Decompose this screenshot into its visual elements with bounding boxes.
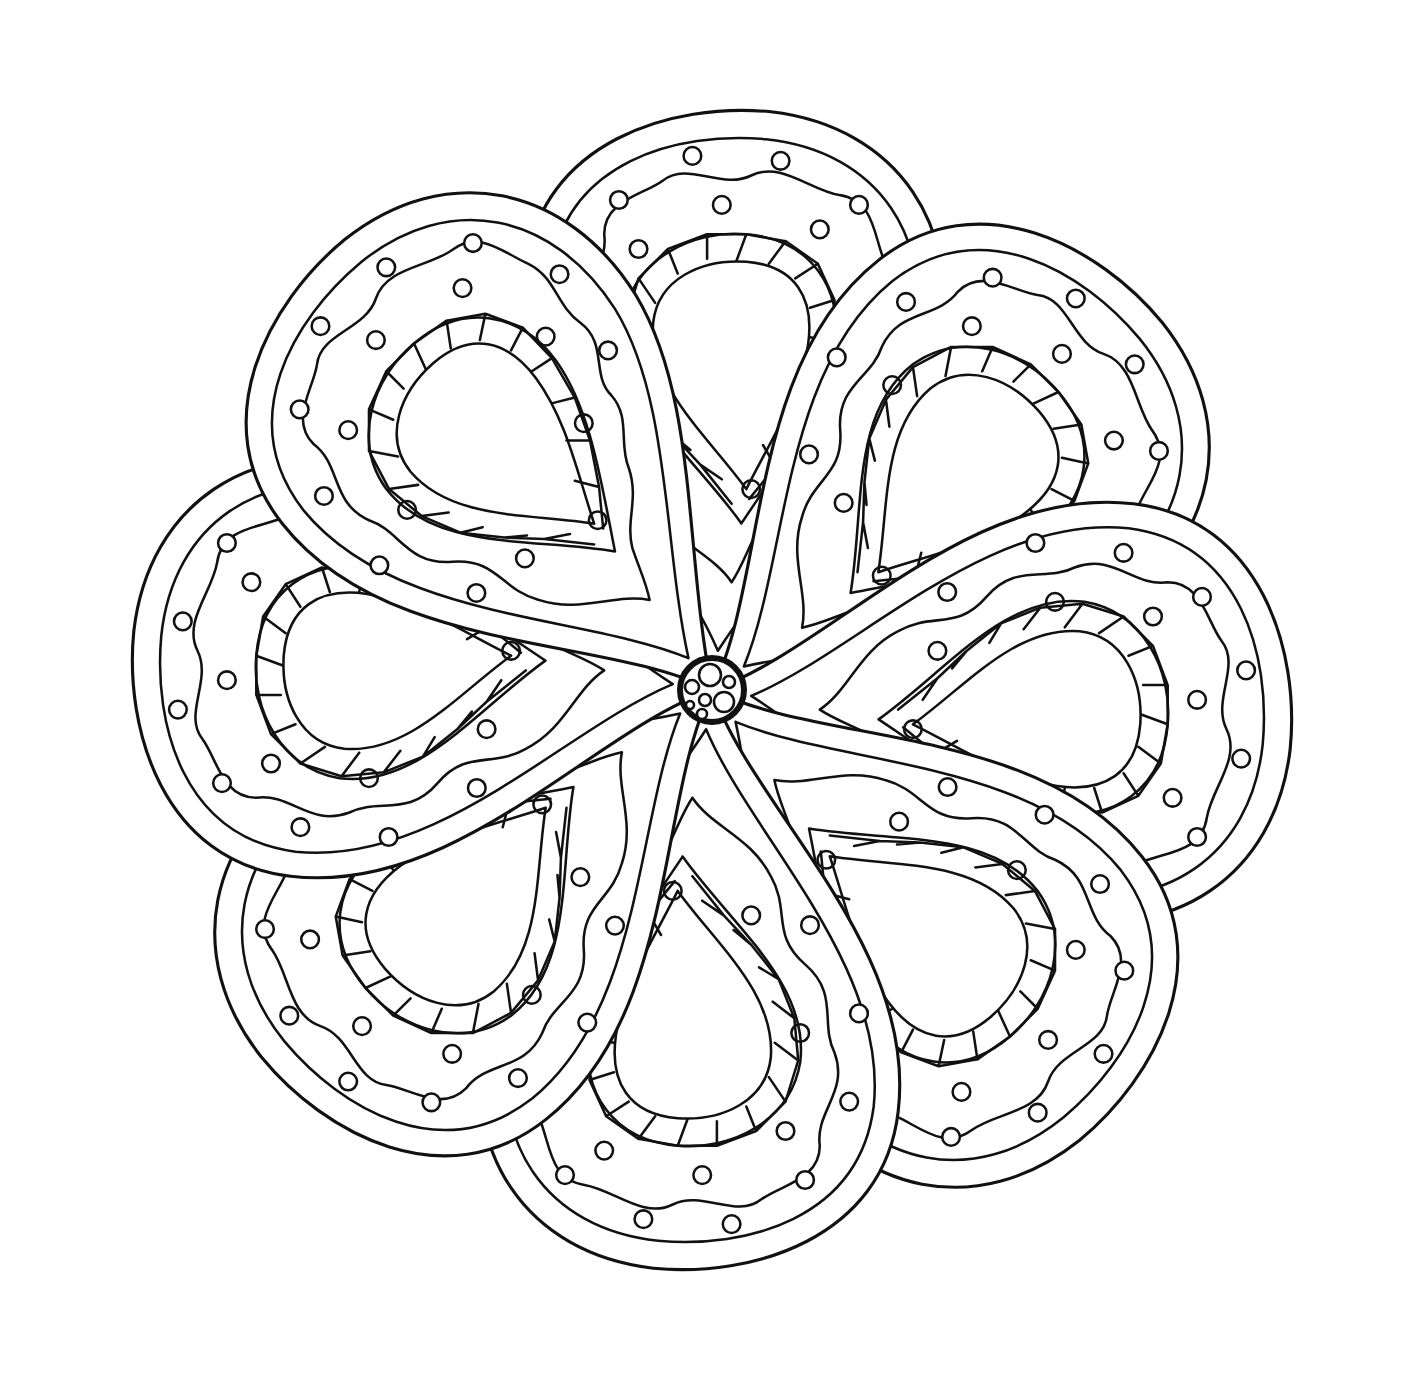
center-boss — [680, 658, 744, 722]
mandala-petals — [132, 110, 1291, 1269]
mandala-coloring-page — [0, 0, 1410, 1378]
